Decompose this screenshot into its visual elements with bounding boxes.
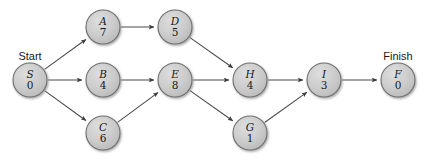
node-duration-a: 7 bbox=[100, 26, 107, 38]
node-duration-i: 3 bbox=[321, 79, 328, 91]
node-letter-b: B bbox=[98, 68, 107, 80]
node-h[interactable]: H4 bbox=[233, 63, 267, 97]
node-letter-d: D bbox=[170, 15, 180, 27]
label-finish: Finish bbox=[383, 50, 412, 62]
node-letter-e: E bbox=[170, 68, 179, 80]
node-letter-f: F bbox=[393, 68, 402, 80]
node-letter-s: S bbox=[26, 68, 33, 80]
node-letter-i: I bbox=[321, 68, 327, 80]
edge-s-to-c bbox=[45, 91, 86, 121]
node-duration-c: 6 bbox=[100, 132, 107, 144]
label-start: Start bbox=[18, 50, 41, 62]
node-letter-g: G bbox=[246, 121, 254, 133]
node-duration-g: 1 bbox=[247, 132, 254, 144]
edge-e-to-g bbox=[190, 90, 233, 120]
node-duration-h: 4 bbox=[247, 79, 254, 91]
edge-s-to-a bbox=[45, 39, 86, 69]
node-f[interactable]: F0 bbox=[381, 63, 415, 97]
node-a[interactable]: A7 bbox=[86, 10, 120, 44]
network-diagram-canvas: S0A7B4C6D5E8H4G1I3F0 StartFinish bbox=[0, 0, 425, 163]
node-duration-d: 5 bbox=[172, 26, 179, 38]
node-i[interactable]: I3 bbox=[307, 63, 341, 97]
node-c[interactable]: C6 bbox=[86, 116, 120, 150]
edge-c-to-e bbox=[118, 93, 158, 123]
node-duration-s: 0 bbox=[27, 79, 34, 91]
node-duration-e: 8 bbox=[172, 79, 179, 91]
node-letter-c: C bbox=[99, 121, 107, 133]
edge-d-to-h bbox=[190, 37, 233, 67]
node-d[interactable]: D5 bbox=[158, 10, 192, 44]
node-g[interactable]: G1 bbox=[233, 116, 267, 150]
node-e[interactable]: E8 bbox=[158, 63, 192, 97]
node-duration-f: 0 bbox=[395, 79, 402, 91]
node-letter-a: A bbox=[98, 15, 107, 27]
node-b[interactable]: B4 bbox=[86, 63, 120, 97]
edge-g-to-i bbox=[265, 92, 307, 122]
node-letter-h: H bbox=[244, 68, 255, 80]
node-s[interactable]: S0 bbox=[13, 63, 47, 97]
node-duration-b: 4 bbox=[100, 79, 107, 91]
network-diagram: S0A7B4C6D5E8H4G1I3F0 StartFinish bbox=[0, 0, 425, 163]
